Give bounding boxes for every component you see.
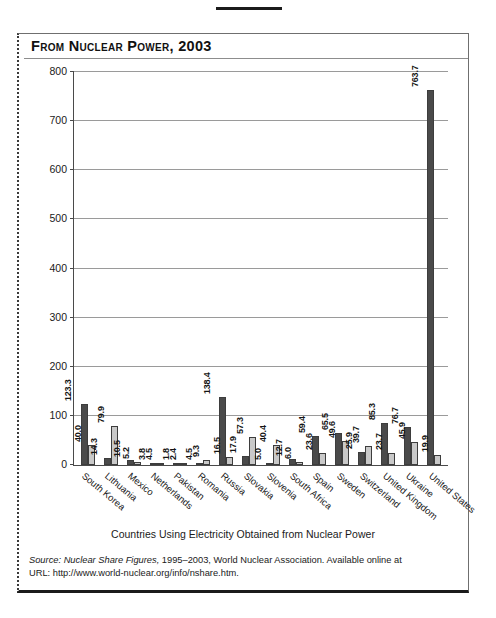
bar-group: 12.76.0 [284,72,307,465]
bar-value-label: 23.6 [304,434,314,451]
source-rest: 1995–2003, World Nuclear Association. Av… [159,555,402,565]
bar-group: 4.59.3 [192,72,215,465]
source-url-line: URL: http://www.world-nuclear.org/info/n… [29,567,449,580]
bar-value-label: 4.5 [144,448,154,460]
bar-value-label: 5.2 [121,448,131,460]
x-category: Russia [214,468,237,524]
bar-value-label: 16.5 [211,437,221,454]
source-line-1: Source: Nuclear Share Figures, 1995–2003… [29,554,449,567]
source-title: Nuclear Share Figures, [64,555,160,565]
x-category: United Kingdom [376,468,399,524]
source-note: Source: Nuclear Share Figures, 1995–2003… [29,554,449,581]
figure-title: From Nuclear Power, 2003 [31,38,212,54]
bar: 5.0 [266,463,273,465]
bar-group: 65.549.6 [330,72,353,465]
bar-value-label: 85.3 [366,403,376,420]
bar: 39.7 [365,446,372,466]
bar: 2.4 [180,463,187,465]
bar-group: 59.423.6 [307,72,330,465]
bar: 45.9 [411,442,418,465]
bar-value-label: 138.4 [202,372,212,394]
bar: 1.8 [173,463,180,465]
bar: 3.8 [150,463,157,465]
bar-value-label: 40.0 [73,426,83,443]
y-tick-label: 300 [49,311,67,323]
bar-group: 10.55.2 [122,72,145,465]
title-underline-rule [24,58,468,59]
bar-value-label: 45.9 [396,423,406,440]
bar-value-label: 9.3 [191,446,201,458]
y-tick-label: 700 [49,114,67,126]
bar: 23.7 [388,453,395,465]
bar-groups: 123.340.014.379.910.55.23.84.51.82.44.59… [74,72,448,465]
x-category: Mexico [121,468,144,524]
bar: 4.5 [196,463,203,465]
x-category: Pakistan [168,468,191,524]
x-axis-title: Countries Using Electricity Obtained fro… [17,528,469,540]
y-tick-label: 0 [61,458,67,470]
bar: 14.3 [104,458,111,465]
x-category: Ukraine [400,468,423,524]
y-tick-label: 600 [49,163,67,175]
bar: 23.6 [319,453,326,465]
bar-value-label: 79.9 [96,406,106,423]
bar: 12.7 [289,459,296,465]
bar-group: 14.379.9 [99,72,122,465]
bar-value-label: 2.4 [168,448,178,460]
bar-value-label: 57.3 [235,417,245,434]
bar-value-label: 23.7 [373,434,383,451]
x-category: United States [423,468,446,524]
bar: 17.9 [242,456,249,465]
bar-value-label: 19.9 [420,436,430,453]
bar: 9.3 [203,460,210,465]
x-category: Sweden [330,468,353,524]
bar-value-label: 5.0 [253,448,263,460]
bar: 5.2 [134,462,141,465]
bar: 10.5 [127,460,134,465]
bar: 6.0 [296,462,303,465]
bar-value-label: 39.7 [350,426,360,443]
y-tick-label: 400 [49,262,67,274]
x-category: Slovakia [237,468,260,524]
bar: 763.7 [427,90,434,465]
x-category: South Korea [75,468,98,524]
y-tick-label: 200 [49,360,67,372]
bar-value-label: 59.4 [297,416,307,433]
y-tick-label: 100 [49,409,67,421]
plot-area: 0100200300400500600700800 123.340.014.37… [73,72,448,466]
x-category: South Africa [284,468,307,524]
bar: 16.5 [226,457,233,465]
bar: 138.4 [219,397,226,465]
bar: 4.5 [157,463,164,465]
x-category: Slovenia [261,468,284,524]
bar-group: 3.84.5 [145,72,168,465]
x-category: Netherlands [145,468,168,524]
bar-group: 76.745.9 [400,72,423,465]
y-tick-label: 500 [49,212,67,224]
bar-group: 5.040.4 [261,72,284,465]
x-category: Lithuania [98,468,121,524]
source-label: Source: [29,555,61,565]
bar-value-label: 14.3 [89,438,99,455]
bar-value-label: 17.9 [228,437,238,454]
bar-group: 138.416.5 [215,72,238,465]
bar-group: 763.719.9 [423,72,446,465]
x-category: Romania [191,468,214,524]
x-category-labels: South KoreaLithuaniaMexicoNetherlandsPak… [73,468,448,524]
bar-value-label: 763.7 [410,65,420,87]
bar-value-label: 123.3 [63,380,73,402]
bar: 25.9 [358,452,365,465]
bar-value-label: 6.0 [283,447,293,459]
bar-value-label: 49.6 [327,421,337,438]
x-category: Spain [307,468,330,524]
top-divider-rule [216,7,282,10]
x-category: Switzerland [353,468,376,524]
bar-group: 17.957.3 [238,72,261,465]
bar-group: 1.82.4 [169,72,192,465]
y-tick-label: 800 [49,65,67,77]
bar-value-label: 40.4 [258,425,268,442]
bar: 19.9 [434,455,441,465]
